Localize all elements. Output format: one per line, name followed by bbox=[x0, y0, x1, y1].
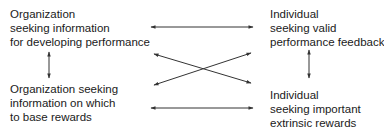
arrow-diagonal-up bbox=[154, 53, 251, 85]
